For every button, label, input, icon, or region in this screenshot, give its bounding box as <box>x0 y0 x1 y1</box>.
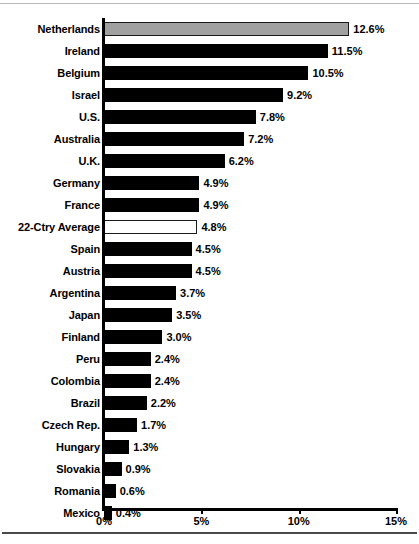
bar-track: 12.6% <box>104 18 419 40</box>
bar-track: 1.7% <box>104 414 419 436</box>
bar <box>104 484 116 498</box>
bar-track: 1.3% <box>104 436 419 458</box>
bar-track: 4.8% <box>104 216 419 238</box>
bar-value-label: 10.5% <box>312 65 343 81</box>
category-label: France <box>0 194 100 216</box>
bar-track: 3.7% <box>104 282 419 304</box>
bar-value-label: 0.6% <box>120 483 145 499</box>
bar-row: Japan3.5% <box>0 304 419 326</box>
bar-row: 22-Ctry Average4.8% <box>0 216 419 238</box>
bar-track: 0.6% <box>104 480 419 502</box>
bar-track: 2.4% <box>104 348 419 370</box>
bar-row: Mexico0.4% <box>0 502 419 524</box>
bar <box>104 330 162 344</box>
x-tick-mark <box>104 508 106 514</box>
bar-value-label: 3.7% <box>180 285 205 301</box>
bar-rows: Netherlands12.6%Ireland11.5%Belgium10.5%… <box>0 18 419 524</box>
bar-row: Peru2.4% <box>0 348 419 370</box>
bar-track: 4.9% <box>104 194 419 216</box>
bar-row: Colombia2.4% <box>0 370 419 392</box>
bar-value-label: 1.7% <box>141 417 166 433</box>
bar-row: Romania0.6% <box>0 480 419 502</box>
bar-value-label: 12.6% <box>353 21 384 37</box>
bar <box>104 66 308 80</box>
x-tick-mark <box>201 508 203 514</box>
bar <box>104 462 122 476</box>
bar-value-label: 4.8% <box>201 219 226 235</box>
bar-value-label: 4.5% <box>196 241 221 257</box>
bar-track: 0.9% <box>104 458 419 480</box>
category-label: Ireland <box>0 40 100 62</box>
bar-row: Brazil2.2% <box>0 392 419 414</box>
category-label: Slovakia <box>0 458 100 480</box>
bar-value-label: 11.5% <box>332 43 363 59</box>
bar <box>104 110 256 124</box>
bar <box>104 132 244 146</box>
bar-track: 4.5% <box>104 238 419 260</box>
x-tick-label: 5% <box>193 515 209 527</box>
bar <box>104 440 129 454</box>
x-tick-label: 10% <box>288 515 310 527</box>
bar <box>104 352 151 366</box>
x-axis-line <box>102 508 396 511</box>
bar <box>104 242 192 256</box>
bar-row: U.K.6.2% <box>0 150 419 172</box>
category-label: U.K. <box>0 150 100 172</box>
bar-track: 6.2% <box>104 150 419 172</box>
bar-track: 7.2% <box>104 128 419 150</box>
bar-track: 2.4% <box>104 370 419 392</box>
bar-row: Austria4.5% <box>0 260 419 282</box>
bar-row: France4.9% <box>0 194 419 216</box>
bar-track: 4.9% <box>104 172 419 194</box>
bar <box>104 44 328 58</box>
x-tick-mark <box>299 508 301 514</box>
bar-row: Germany4.9% <box>0 172 419 194</box>
bar <box>104 308 172 322</box>
bar-track: 0.4% <box>104 502 419 524</box>
bar-row: Netherlands12.6% <box>0 18 419 40</box>
bar-row: Israel9.2% <box>0 84 419 106</box>
category-label: Germany <box>0 172 100 194</box>
bar-track: 3.0% <box>104 326 419 348</box>
category-label: Hungary <box>0 436 100 458</box>
category-label: Argentina <box>0 282 100 304</box>
bar-value-label: 4.5% <box>196 263 221 279</box>
bar-row: Finland3.0% <box>0 326 419 348</box>
x-tick-mark <box>396 508 398 514</box>
page-rule-bottom <box>2 532 417 534</box>
category-label: Austria <box>0 260 100 282</box>
category-label: 22-Ctry Average <box>0 216 100 238</box>
category-label: Japan <box>0 304 100 326</box>
category-label: U.S. <box>0 106 100 128</box>
bar <box>104 264 192 278</box>
bar-value-label: 9.2% <box>287 87 312 103</box>
bar-value-label: 4.9% <box>203 197 228 213</box>
plot-area: Netherlands12.6%Ireland11.5%Belgium10.5%… <box>0 0 419 530</box>
y-axis-line <box>102 18 105 510</box>
bar-row: Slovakia0.9% <box>0 458 419 480</box>
bar <box>104 198 199 212</box>
category-label: Peru <box>0 348 100 370</box>
bar-row: Spain4.5% <box>0 238 419 260</box>
bar-value-label: 2.4% <box>155 351 180 367</box>
bar-value-label: 1.3% <box>133 439 158 455</box>
bar-row: U.S.7.8% <box>0 106 419 128</box>
bar-value-label: 2.4% <box>155 373 180 389</box>
bar-value-label: 7.8% <box>260 109 285 125</box>
bar-value-label: 7.2% <box>248 131 273 147</box>
bar-value-label: 4.9% <box>203 175 228 191</box>
bar <box>104 374 151 388</box>
bar-chart: Netherlands12.6%Ireland11.5%Belgium10.5%… <box>0 0 419 544</box>
x-tick-label: 0% <box>96 515 112 527</box>
bar-row: Czech Rep.1.7% <box>0 414 419 436</box>
category-label: Australia <box>0 128 100 150</box>
category-label: Netherlands <box>0 18 100 40</box>
category-label: Belgium <box>0 62 100 84</box>
bar-row: Hungary1.3% <box>0 436 419 458</box>
bar-track: 2.2% <box>104 392 419 414</box>
bar <box>104 220 197 234</box>
bar-value-label: 3.5% <box>176 307 201 323</box>
category-label: Israel <box>0 84 100 106</box>
bar <box>104 22 349 36</box>
category-label: Mexico <box>0 502 100 524</box>
